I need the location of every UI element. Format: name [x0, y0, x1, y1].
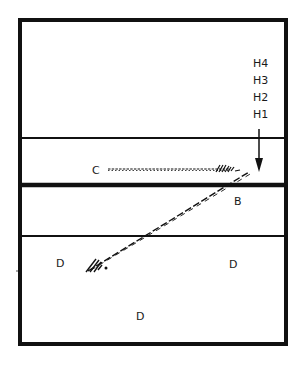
diagram-canvas: H4 H3 H2 H1 C B D D D: [0, 0, 301, 365]
outer-frame: [20, 20, 286, 344]
down-arrow-icon: [255, 129, 263, 172]
label-h3: H3: [253, 74, 268, 87]
label-h2: H2: [253, 91, 268, 104]
hatched-path-c: [108, 165, 240, 172]
label-d-bottom: D: [136, 310, 144, 323]
speck: [16, 270, 18, 272]
label-c: C: [92, 164, 100, 177]
label-d-left: D: [56, 257, 64, 270]
label-h1: H1: [253, 108, 268, 121]
label-h4: H4: [253, 57, 268, 70]
label-b: B: [234, 195, 242, 208]
label-d-right: D: [229, 258, 237, 271]
